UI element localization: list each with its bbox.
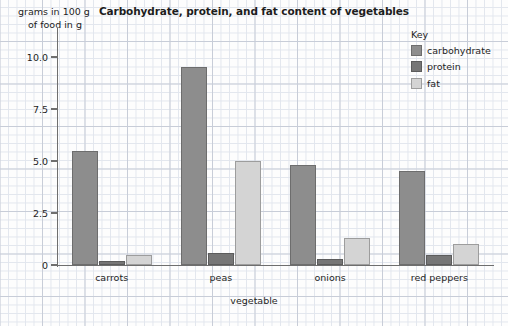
bar-carbohydrate-red-peppers [399, 171, 425, 265]
legend-item-protein: protein [411, 60, 506, 74]
y-axis-tick-label: 5.0 [8, 156, 48, 167]
legend-rows: carbohydrateproteinfat [411, 43, 506, 90]
y-axis-title: grams in 100 g of food in g [18, 6, 90, 31]
bar-fat-red-peppers [453, 244, 479, 265]
chart-page: Carbohydrate, protein, and fat content o… [0, 0, 508, 326]
x-axis-category-label: red peppers [385, 272, 494, 283]
bar-protein-carrots [99, 261, 125, 265]
bar-protein-onions [317, 259, 343, 265]
legend-label: protein [427, 61, 461, 72]
bar-carbohydrate-peas [181, 67, 207, 265]
legend-swatch-carbohydrate-icon [411, 45, 422, 56]
bar-fat-peas [235, 161, 261, 265]
bar-fat-carrots [126, 255, 152, 265]
legend-item-fat: fat [411, 76, 506, 90]
x-axis-title: vegetable [0, 295, 508, 306]
bar-carbohydrate-carrots [72, 151, 98, 265]
bar-protein-peas [208, 253, 234, 265]
x-axis-category-label: peas [166, 272, 275, 283]
legend-label: carbohydrate [427, 45, 491, 56]
category-group [166, 30, 275, 265]
y-axis-tick-label: 7.5 [8, 104, 48, 115]
legend-swatch-fat-icon [411, 78, 422, 89]
x-axis-category-label: carrots [57, 272, 166, 283]
y-axis-tick-label: 10.0 [8, 52, 48, 63]
legend-label: fat [427, 78, 440, 89]
y-axis-title-line1: grams in 100 g [18, 6, 90, 17]
bar-protein-red-peppers [426, 255, 452, 265]
y-axis-tick-label: 2.5 [8, 208, 48, 219]
bar-fat-onions [344, 238, 370, 265]
x-axis-category-label: onions [276, 272, 385, 283]
legend: Key carbohydrateproteinfat [411, 29, 506, 93]
category-group [57, 30, 166, 265]
category-group [276, 30, 385, 265]
legend-title: Key [411, 29, 506, 40]
bar-carbohydrate-onions [290, 165, 316, 265]
legend-item-carbohydrate: carbohydrate [411, 43, 506, 57]
y-axis-tick-label: 0 [8, 260, 48, 271]
legend-swatch-protein-icon [411, 61, 422, 72]
